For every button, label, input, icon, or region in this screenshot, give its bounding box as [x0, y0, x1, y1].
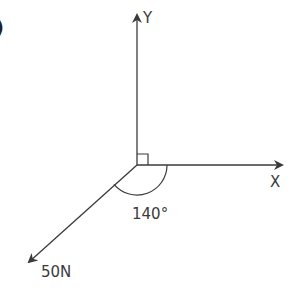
- x-axis-label: X: [270, 173, 280, 191]
- angle-arc: [114, 165, 167, 195]
- right-angle-marker: [137, 154, 148, 165]
- force-diagram: [0, 0, 304, 302]
- force-vector-arrow: [29, 165, 137, 262]
- y-axis-label: Y: [143, 9, 152, 27]
- force-magnitude-label: 50N: [41, 263, 71, 281]
- angle-label: 140°: [132, 205, 168, 223]
